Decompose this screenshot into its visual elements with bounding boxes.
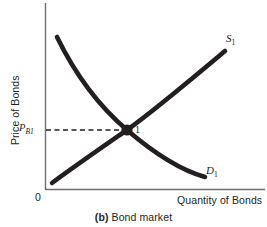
- demand-subscript: 1: [214, 170, 218, 179]
- demand-symbol: D: [206, 164, 214, 176]
- bond-market-figure: Price of Bonds Quantity of Bonds 0 PB1 S…: [0, 0, 267, 227]
- figure-caption: (b) Bond market: [0, 211, 267, 223]
- figure-caption-text: Bond market: [112, 211, 173, 223]
- demand-curve: [57, 37, 205, 177]
- demand-curve-label: D1: [206, 165, 218, 179]
- supply-subscript: 1: [232, 38, 236, 47]
- equilibrium-point-label: 1: [135, 125, 140, 135]
- x-axis-title: Quantity of Bonds: [177, 195, 262, 206]
- y-axis-title: Price of Bonds: [10, 45, 21, 175]
- figure-caption-tag: (b): [95, 211, 109, 223]
- price-subscript: B1: [25, 127, 33, 136]
- origin-label: 0: [35, 192, 41, 203]
- equilibrium-price-label: PB1: [19, 123, 34, 136]
- equilibrium-point-marker: [121, 124, 132, 135]
- supply-curve-label: S1: [226, 33, 235, 47]
